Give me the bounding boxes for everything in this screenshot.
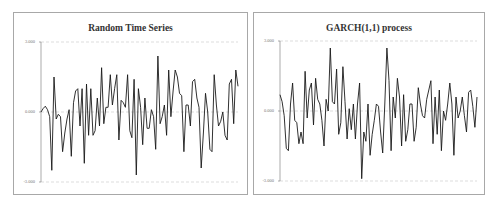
series-line [280, 48, 477, 179]
garch-plot [0, 0, 495, 208]
